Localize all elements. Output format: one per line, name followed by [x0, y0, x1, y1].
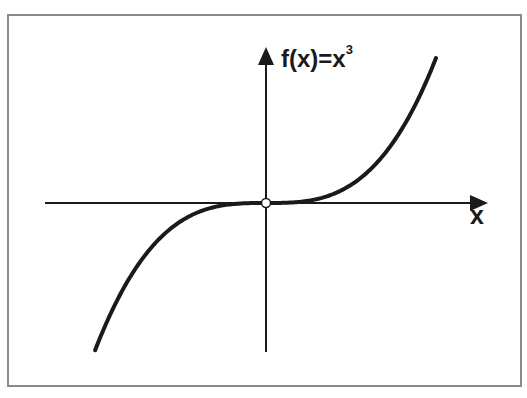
y-axis-label: f(x)=x3: [281, 45, 353, 73]
plot-area: [0, 0, 527, 398]
origin-marker: [262, 199, 271, 208]
y-axis-arrow-icon: [258, 47, 274, 65]
x-axis-label: x: [470, 201, 484, 230]
y-axis-label-exponent: 3: [346, 42, 353, 57]
y-axis-label-base: f(x)=x: [281, 45, 346, 72]
